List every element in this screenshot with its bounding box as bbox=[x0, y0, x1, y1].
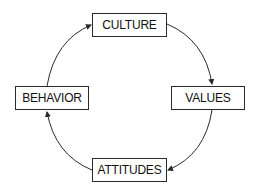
node-culture: CULTURE bbox=[92, 13, 167, 37]
node-culture-label: CULTURE bbox=[102, 18, 156, 32]
node-attitudes: ATTITUDES bbox=[92, 158, 167, 182]
node-values-label: VALUES bbox=[185, 91, 230, 105]
arrow-behavior-to-culture bbox=[47, 25, 91, 86]
node-behavior-label: BEHAVIOR bbox=[22, 91, 82, 105]
arrow-culture-to-values bbox=[167, 24, 212, 84]
arrow-attitudes-to-behavior bbox=[47, 112, 92, 170]
node-values: VALUES bbox=[171, 86, 245, 110]
arrow-values-to-attitudes bbox=[168, 110, 212, 170]
node-behavior: BEHAVIOR bbox=[15, 86, 89, 110]
node-attitudes-label: ATTITUDES bbox=[98, 163, 162, 177]
